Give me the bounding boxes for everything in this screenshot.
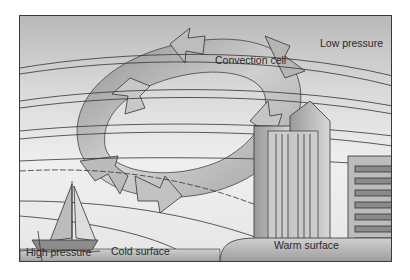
cold-surface-label: Cold surface <box>111 245 170 257</box>
warm-surface-label: Warm surface <box>274 239 339 251</box>
low-pressure-label: Low pressure <box>320 37 383 49</box>
high-pressure-label: High pressure <box>26 246 91 258</box>
diagram-canvas <box>20 16 392 262</box>
diagram-frame: Low pressure Convection cell High pressu… <box>19 15 392 262</box>
convection-cell-label: Convection cell <box>215 54 286 66</box>
